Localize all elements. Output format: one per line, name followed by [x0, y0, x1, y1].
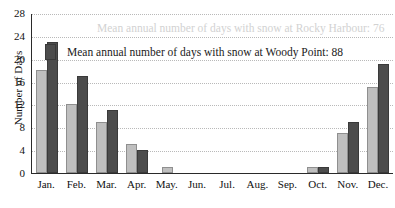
bar-group — [122, 14, 152, 173]
y-axis-tick: 12 — [14, 99, 25, 110]
bar — [318, 167, 329, 173]
y-axis-tick: 8 — [20, 122, 26, 133]
x-axis-tick: Jul. — [212, 178, 242, 190]
plot-area — [31, 14, 393, 174]
legend-label-rocky-harbour: Mean annual number of days with snow at … — [97, 22, 384, 35]
bar-group — [152, 14, 182, 173]
bar — [126, 144, 137, 173]
x-axis-tick: Oct. — [303, 178, 333, 190]
legend-item-woody-point: Mean annual number of days with snow at … — [45, 44, 343, 60]
y-axis-tick: 4 — [20, 145, 26, 156]
x-axis-tick: Mar. — [91, 178, 121, 190]
legend-swatch-woody-point — [45, 44, 56, 60]
bar-group — [32, 14, 62, 173]
x-axis-tick: Feb. — [61, 178, 91, 190]
x-axis-tick: Jun. — [182, 178, 212, 190]
bar — [307, 167, 318, 173]
bar-group — [333, 14, 363, 173]
y-axis-tick: 0 — [20, 168, 26, 179]
bar-group — [273, 14, 303, 173]
x-axis-tick: Jan. — [31, 178, 61, 190]
bar — [47, 42, 58, 173]
y-axis-tick: 16 — [14, 77, 25, 88]
bar-group — [212, 14, 242, 173]
bar-group — [92, 14, 122, 173]
bar — [107, 110, 118, 173]
bar — [367, 87, 378, 173]
legend-label-woody-point: Mean annual number of days with snow at … — [67, 46, 343, 59]
x-axis-tick: May. — [152, 178, 182, 190]
bar-group — [363, 14, 393, 173]
bar — [348, 122, 359, 173]
y-axis-tick: 28 — [14, 8, 25, 19]
bar-group — [243, 14, 273, 173]
bar-group — [62, 14, 92, 173]
bar — [337, 133, 348, 173]
snow-days-bar-chart: Number of Days 0481216202428 Jan.Feb.Mar… — [0, 0, 395, 208]
bar — [378, 64, 389, 173]
legend-item-rocky-harbour: Mean annual number of days with snow at … — [75, 20, 384, 36]
x-axis-tick: Sep. — [272, 178, 302, 190]
bars-layer — [32, 14, 393, 173]
y-axis-tick-labels: 0481216202428 — [0, 0, 29, 208]
y-axis-tick: 20 — [14, 54, 25, 65]
x-axis-tick: Apr. — [122, 178, 152, 190]
bar — [36, 70, 47, 173]
x-axis-tick-labels: Jan.Feb.Mar.Apr.May.Jun.Jul.Aug.Sep.Oct.… — [31, 178, 393, 190]
bar-group — [182, 14, 212, 173]
x-axis-tick: Aug. — [242, 178, 272, 190]
bar — [77, 76, 88, 173]
x-axis-tick: Nov. — [333, 178, 363, 190]
bar — [162, 167, 173, 173]
x-axis-tick: Dec. — [363, 178, 393, 190]
bar — [66, 104, 77, 173]
bar — [96, 122, 107, 173]
bar-group — [303, 14, 333, 173]
bar — [137, 150, 148, 173]
y-axis-tick: 24 — [14, 31, 25, 42]
